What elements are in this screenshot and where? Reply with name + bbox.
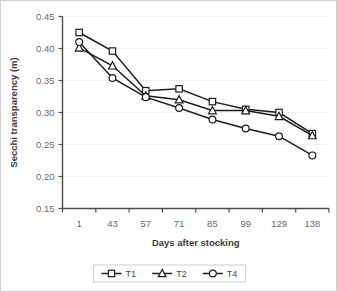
y-axis-title: Secchi transparency (m) xyxy=(8,57,19,167)
y-tick-label: 0.15 xyxy=(36,203,55,214)
x-tick-labels: 14357718599129138 xyxy=(77,218,321,229)
x-tick-label: 57 xyxy=(140,218,151,229)
y-tick-label: 0.20 xyxy=(36,171,55,182)
data-point-t1-85 xyxy=(209,98,215,104)
data-point-t4-57 xyxy=(142,94,149,101)
data-point-t1-71 xyxy=(176,86,182,92)
legend-marker-t1 xyxy=(108,270,114,276)
x-tick-label: 129 xyxy=(271,218,287,229)
legend-label-t1: T1 xyxy=(126,269,137,279)
series-line-t2 xyxy=(79,48,312,136)
data-point-t4-85 xyxy=(209,116,216,123)
series-t2 xyxy=(75,44,316,139)
data-point-t4-138 xyxy=(309,152,316,159)
y-axis xyxy=(59,17,63,209)
data-point-t4-43 xyxy=(109,75,116,82)
x-tick-label: 99 xyxy=(240,218,251,229)
x-tick-label: 43 xyxy=(107,218,118,229)
chart-plot-area: 0.150.200.250.300.350.400.45 14357718599… xyxy=(1,1,337,292)
x-tick-label: 138 xyxy=(304,218,320,229)
legend-marker-t4 xyxy=(209,270,216,277)
data-point-t4-71 xyxy=(176,105,183,112)
x-tick-label: 85 xyxy=(207,218,218,229)
axis-titles: Days after stockingSecchi transparency (… xyxy=(8,57,240,248)
series-t1 xyxy=(76,29,316,137)
legend-label-t4: T4 xyxy=(227,269,238,279)
legend-label-t2: T2 xyxy=(176,269,187,279)
data-point-t4-129 xyxy=(276,133,283,140)
chart-figure: 0.150.200.250.300.350.400.45 14357718599… xyxy=(0,0,337,292)
y-tick-label: 0.25 xyxy=(36,139,55,150)
x-tick-label: 1 xyxy=(77,218,82,229)
x-tick-label: 71 xyxy=(174,218,185,229)
chart-legend: T1T2T4 xyxy=(94,265,246,282)
data-point-t2-43 xyxy=(109,62,117,69)
series-t4 xyxy=(76,39,316,159)
x-axis xyxy=(63,209,330,213)
x-axis-title: Days after stocking xyxy=(152,237,240,248)
data-point-t4-1 xyxy=(76,39,83,46)
y-tick-labels: 0.150.200.250.300.350.400.45 xyxy=(36,11,55,214)
data-point-t4-99 xyxy=(242,125,249,132)
data-point-t1-43 xyxy=(109,48,115,54)
y-tick-label: 0.35 xyxy=(36,75,55,86)
y-tick-label: 0.40 xyxy=(36,43,55,54)
y-tick-label: 0.30 xyxy=(36,107,55,118)
data-point-t1-1 xyxy=(76,29,82,35)
y-tick-label: 0.45 xyxy=(36,11,55,22)
